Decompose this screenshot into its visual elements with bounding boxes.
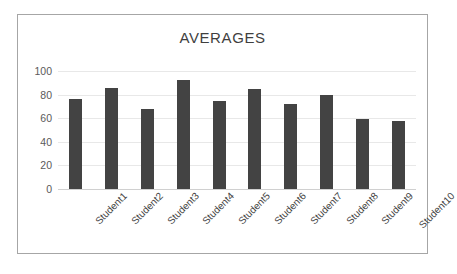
y-tick-label-100: 100: [34, 66, 52, 77]
bar-series: [58, 71, 416, 189]
x-axis-labels: Student1Student2Student3Student4Student5…: [58, 191, 416, 253]
x-tick-label: Student8: [344, 191, 379, 226]
bar: [320, 95, 333, 189]
bar: [392, 121, 405, 189]
bar: [248, 89, 261, 189]
bar: [177, 80, 190, 189]
bar: [284, 104, 297, 189]
y-tick-label-60: 60: [40, 113, 52, 124]
bar: [105, 88, 118, 189]
x-tick-label: Student7: [308, 191, 343, 226]
y-tick-label-0: 0: [46, 184, 52, 195]
x-tick-label: Student1: [94, 191, 129, 226]
bar: [356, 119, 369, 189]
y-tick-label-20: 20: [40, 160, 52, 171]
bar: [213, 101, 226, 190]
x-tick-label: Student3: [165, 191, 200, 226]
x-tick-label: Student10: [417, 191, 456, 230]
chart-title: AVERAGES: [18, 29, 427, 46]
x-tick-label: Student4: [201, 191, 236, 226]
bar: [69, 99, 82, 189]
chart-container: AVERAGES 020406080100 Student1Student2St…: [17, 14, 428, 254]
bar: [141, 109, 154, 189]
x-tick-label: Student9: [380, 191, 415, 226]
y-tick-label-40: 40: [40, 137, 52, 148]
y-tick-label-80: 80: [40, 89, 52, 100]
plot-area: 020406080100: [58, 71, 416, 189]
gridline-0: [58, 189, 416, 190]
x-tick-label: Student5: [237, 191, 272, 226]
x-tick-label: Student6: [273, 191, 308, 226]
x-tick-label: Student2: [129, 191, 164, 226]
